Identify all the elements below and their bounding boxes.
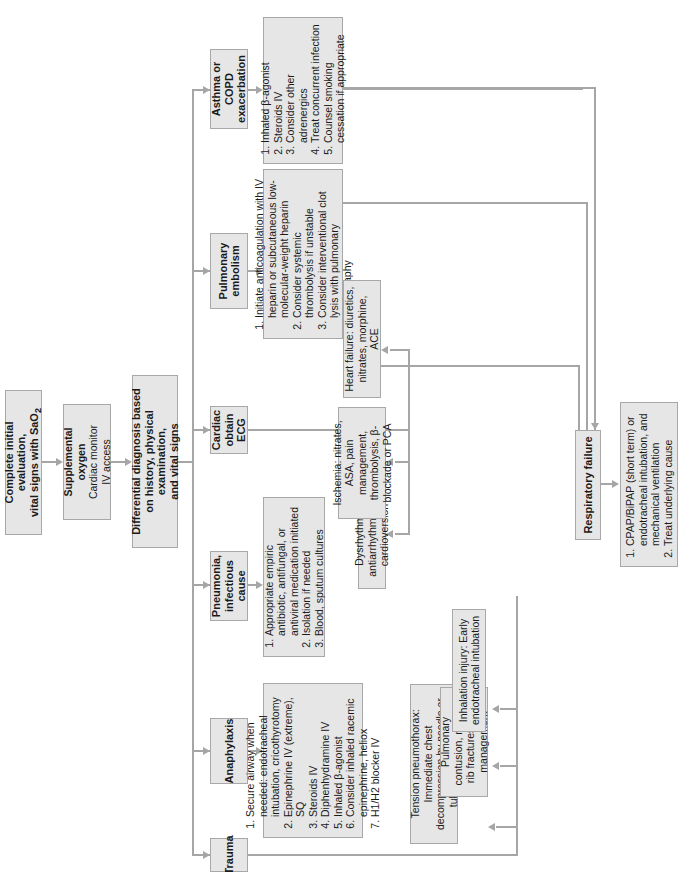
arrow-icon	[203, 851, 210, 859]
diagnosis-anaphylaxis: Anaphylaxis	[210, 718, 248, 784]
diagnosis-pneumonia: Pneumonia, infectious cause	[210, 551, 248, 621]
connector	[42, 461, 56, 463]
connector	[578, 365, 580, 430]
arrow-icon	[203, 86, 210, 94]
respiratory-failure-treatment: CPAP/BiPAP (short term) or endotracheal …	[620, 402, 678, 567]
connector	[594, 87, 596, 430]
connector	[500, 765, 518, 767]
connector	[586, 202, 588, 430]
connector	[111, 461, 125, 463]
branch-spine	[192, 91, 194, 856]
connector	[178, 461, 193, 463]
arrow-icon	[492, 705, 499, 713]
cardiac-heart-failure-box: Heart failure: diuretics, nitrates, morp…	[343, 280, 381, 398]
trauma-inhalation-injury-box: Inhalation injury: Early endotracheal in…	[452, 609, 486, 732]
connector	[381, 365, 579, 367]
connector	[496, 826, 518, 828]
diagnosis-cardiac: Cardiac obtain ECG	[210, 406, 248, 454]
supplemental-oxygen-box: Supplemental oxygen Cardiac monitor IV a…	[63, 404, 111, 520]
arrow-icon	[612, 480, 619, 488]
cardiac-ischemia-box: Ischemia: nitrates, ASA, pain management…	[338, 407, 386, 519]
connector	[500, 708, 518, 710]
arrow-icon	[492, 762, 499, 770]
respiratory-failure-box: Respiratory failure	[575, 430, 601, 540]
connector	[408, 349, 410, 431]
arrow-icon	[488, 823, 495, 831]
arrow-icon	[591, 423, 599, 430]
treatment-pneumonia: Appropriate empiric antibiotic, antifung…	[263, 497, 325, 657]
connector	[395, 533, 410, 535]
connector	[343, 87, 596, 89]
connector	[343, 202, 588, 204]
connector	[395, 461, 410, 463]
diagnosis-asthma-copd: Asthma or COPD exacerbation	[210, 49, 248, 129]
connector	[248, 854, 518, 856]
arrow-icon	[203, 747, 210, 755]
treatment-anaphylaxis: Secure airway when needed: endotracheal …	[263, 683, 363, 838]
connector	[516, 596, 518, 856]
connector	[390, 349, 410, 351]
arrow-icon	[203, 267, 210, 275]
differential-diagnosis-box: Differential diagnosis based on history,…	[132, 375, 178, 548]
treatment-pulmonary-embolism: Initiate anticoagulation with IV heparin…	[263, 169, 343, 339]
treatment-asthma-copd: Inhaled β-agonist Steroids IV Consider o…	[263, 17, 343, 164]
arrow-icon	[381, 346, 388, 354]
diagnosis-trauma: Trauma	[210, 838, 248, 872]
arrow-icon	[203, 581, 210, 589]
diagnosis-pulmonary-embolism: Pulmonary embolism	[210, 233, 248, 309]
initial-evaluation-box: Complete initial evaluation, vital signs…	[5, 390, 42, 535]
arrow-icon	[203, 426, 210, 434]
flowchart-canvas: Complete initial evaluation, vital signs…	[0, 0, 683, 872]
connector	[408, 431, 410, 535]
